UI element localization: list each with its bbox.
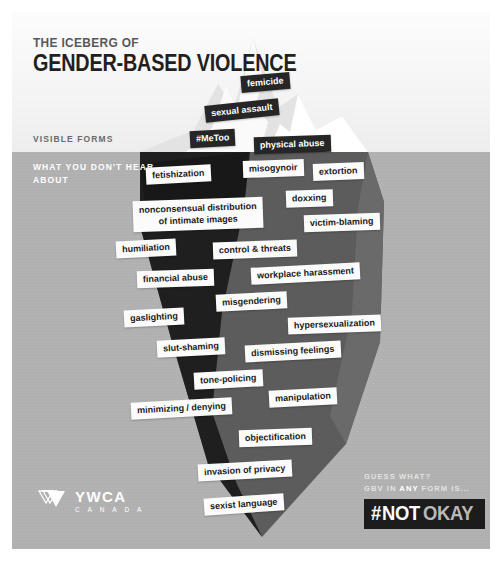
infographic-poster: THE ICEBERG OF GENDER-BASED VIOLENCE VIS… (0, 0, 502, 573)
hidden-form-tag: objectification (239, 428, 313, 448)
hidden-form-tag: gaslighting (124, 307, 185, 327)
hidden-form-tag: extortion (313, 162, 364, 181)
hidden-form-tag: victim-blaming (304, 213, 380, 233)
visible-form-tag: #MeToo (190, 129, 236, 149)
callout-line-1: GUESS WHAT? (364, 471, 485, 483)
notokay-okay: OKAY (423, 502, 473, 525)
visible-form-tag: physical abuse (254, 135, 331, 155)
page-title: THE ICEBERG OF GENDER-BASED VIOLENCE (33, 36, 339, 75)
title-line-1: THE ICEBERG OF (33, 36, 303, 50)
ywca-logo: YWCA C A N A D A (37, 487, 145, 515)
hidden-form-tag: manipulation (269, 387, 338, 408)
ywca-country: C A N A D A (75, 507, 145, 514)
title-line-2: GENDER-BASED VIOLENCE (33, 51, 296, 75)
hidden-form-tag: humiliation (116, 238, 177, 258)
notokay-callout: GUESS WHAT? GBV IN ANY FORM IS... #NOTOK… (364, 471, 485, 529)
notokay-not: NOT (382, 502, 420, 525)
notokay-badge: #NOTOKAY (364, 499, 485, 529)
callout-line-2: GBV IN ANY FORM IS... (364, 483, 485, 495)
hidden-form-tag: doxxing (286, 189, 333, 208)
section-label-hidden: WHAT YOU DON'T HEAR ABOUT (33, 161, 154, 187)
hidden-form-tag: financial abuse (137, 269, 215, 289)
hidden-form-tag: slut-shaming (157, 337, 226, 358)
ywca-triangle-icon (37, 487, 67, 515)
hidden-form-tag: hypersexualization (288, 314, 382, 335)
hidden-form-tag: fetishization (146, 164, 211, 185)
section-label-visible: VISIBLE FORMS (33, 133, 113, 146)
hidden-form-tag: tone-policing (194, 369, 263, 390)
hidden-form-tag: control & threats (213, 240, 298, 260)
notokay-hash: # (371, 502, 381, 525)
hidden-form-tag: misgendering (216, 291, 288, 312)
callout-line-2-part-a: GBV IN (364, 484, 399, 493)
ywca-wordmark: YWCA (75, 489, 145, 504)
hidden-form-tag: nonconsensual distribution of intimate i… (132, 197, 263, 233)
callout-line-2-part-c: FORM IS... (418, 484, 470, 493)
hidden-form-tag: misogynoir (243, 159, 304, 178)
callout-emphasis-any: ANY (399, 484, 418, 493)
